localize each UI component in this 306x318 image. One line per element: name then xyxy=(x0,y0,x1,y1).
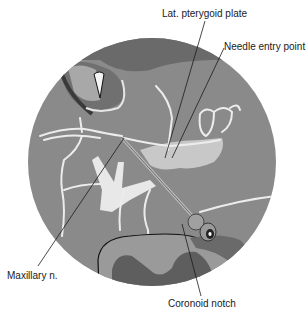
label-maxillary-n: Maxillary n. xyxy=(7,270,58,282)
label-lat-pterygoid-plate: Lat. pterygoid plate xyxy=(162,8,247,20)
label-coronoid-notch: Coronoid notch xyxy=(168,298,236,310)
label-needle-entry-point: Needle entry point xyxy=(224,41,305,53)
